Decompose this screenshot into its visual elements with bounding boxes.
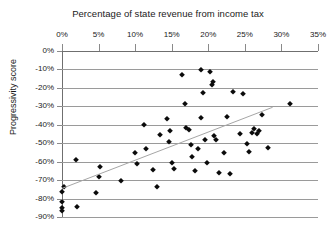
y-tick-mark: [57, 199, 62, 200]
data-point: [132, 150, 138, 156]
plot-area: [62, 51, 318, 217]
x-tick-label: 35%: [303, 30, 333, 39]
data-point: [256, 128, 262, 134]
y-tick-mark: [57, 217, 62, 218]
gridline: [62, 51, 318, 52]
y-tick-label: -50%: [14, 138, 54, 147]
data-point: [74, 204, 80, 210]
data-point: [143, 146, 149, 152]
data-point: [200, 89, 206, 95]
data-point: [192, 168, 198, 174]
data-point: [259, 112, 265, 118]
x-tick-mark: [318, 44, 319, 51]
data-point: [179, 72, 185, 78]
y-tick-mark: [57, 143, 62, 144]
x-tick-label: 5%: [84, 30, 114, 39]
x-tick-mark: [281, 44, 282, 51]
gridline: [62, 217, 318, 218]
data-point: [154, 184, 160, 190]
x-tick-mark: [245, 44, 246, 51]
x-tick-mark: [208, 44, 209, 51]
data-point: [169, 159, 175, 165]
gridline: [62, 125, 318, 126]
y-tick-label: 0%: [14, 46, 54, 55]
x-tick-label: 20%: [193, 30, 223, 39]
data-point: [237, 131, 243, 137]
y-tick-label: -90%: [14, 212, 54, 221]
y-tick-label: -20%: [14, 83, 54, 92]
data-point: [97, 164, 103, 170]
data-point: [224, 114, 230, 120]
y-tick-label: -30%: [14, 101, 54, 110]
data-point: [61, 183, 67, 189]
x-tick-label: 30%: [266, 30, 296, 39]
gridline: [62, 69, 318, 70]
x-tick-label: 0%: [47, 30, 77, 39]
data-point: [215, 170, 221, 176]
data-point: [204, 159, 210, 165]
data-point: [198, 67, 204, 73]
data-point: [244, 141, 250, 147]
data-point: [163, 116, 169, 122]
data-point: [117, 178, 123, 184]
x-tick-label: 15%: [157, 30, 187, 39]
gridline: [62, 162, 318, 163]
y-tick-mark: [57, 125, 62, 126]
gridline: [62, 106, 318, 107]
y-tick-mark: [57, 69, 62, 70]
y-tick-label: -60%: [14, 157, 54, 166]
y-tick-mark: [57, 162, 62, 163]
y-tick-mark: [57, 180, 62, 181]
y-tick-label: -80%: [14, 194, 54, 203]
scatter-chart: Percentage of state revenue from income …: [0, 0, 336, 227]
gridline: [62, 88, 318, 89]
y-tick-mark: [57, 88, 62, 89]
data-point: [230, 88, 236, 94]
data-point: [265, 145, 271, 151]
data-point: [166, 139, 172, 145]
data-point: [188, 142, 194, 148]
data-point: [150, 167, 156, 173]
y-tick-label: -40%: [14, 120, 54, 129]
data-point: [221, 150, 227, 156]
x-tick-mark: [135, 44, 136, 51]
y-tick-mark: [57, 106, 62, 107]
data-point: [141, 122, 147, 128]
data-point: [240, 91, 246, 97]
x-tick-label: 25%: [230, 30, 260, 39]
x-tick-mark: [172, 44, 173, 51]
y-tick-label: -10%: [14, 64, 54, 73]
gridline: [62, 199, 318, 200]
data-point: [171, 166, 177, 172]
data-point: [185, 127, 191, 133]
y-tick-mark: [57, 51, 62, 52]
x-tick-label: 10%: [120, 30, 150, 39]
x-tick-mark: [99, 44, 100, 51]
chart-title: Percentage of state revenue from income …: [0, 8, 336, 19]
data-point: [157, 132, 163, 138]
gridline: [62, 180, 318, 181]
data-point: [93, 190, 99, 196]
data-point: [195, 146, 201, 152]
y-tick-label: -70%: [14, 175, 54, 184]
data-point: [167, 128, 173, 134]
data-point: [227, 171, 233, 177]
data-point: [246, 148, 252, 154]
data-point: [189, 154, 195, 160]
x-tick-mark: [62, 44, 63, 51]
data-point: [198, 115, 204, 121]
